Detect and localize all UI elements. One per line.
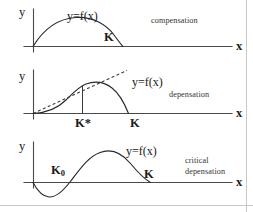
- panel-compensation-graphics: [24, 9, 232, 52]
- panel1-regime-label: compensation: [151, 16, 198, 27]
- panel1-function-label: y=f(x): [67, 10, 98, 22]
- panel1-x-axis-label: x: [236, 40, 242, 53]
- panel2-marker-K: K: [130, 117, 140, 130]
- panel3-regime-label-line1: critical: [185, 156, 209, 165]
- panel2-regime-label: depensation: [169, 90, 209, 101]
- panel3-y-axis-label: y: [19, 140, 25, 153]
- panel2-y-axis-label: y: [19, 70, 25, 83]
- figure-canvas: [0, 0, 253, 212]
- panel2-tangent-line: [33, 71, 127, 114]
- panel1-marker-K: K: [104, 31, 114, 44]
- panel3-regime-label-line2: depensation: [185, 167, 225, 176]
- panel3-marker-K0: K0: [51, 164, 65, 177]
- panel1-y-axis-label: y: [19, 6, 25, 19]
- panel2-function-label: y=f(x): [132, 76, 163, 88]
- panel3-x-axis-label: x: [236, 176, 242, 189]
- panel3-regime-label: criticaldepensation: [185, 156, 225, 177]
- panel3-marker-K: K: [144, 168, 154, 181]
- panel2-marker-Kstar: K*: [75, 117, 91, 130]
- panel3-function-label: y=f(x): [126, 145, 157, 157]
- growth-function-figure: y x y=f(x) K compensation y x y=f(x) K* …: [0, 0, 253, 212]
- panel3-marker-K0-base: K: [51, 163, 61, 177]
- panel3-marker-K0-subscript: 0: [61, 168, 65, 178]
- panel2-curve: [33, 82, 129, 113]
- panel2-x-axis-label: x: [236, 107, 242, 120]
